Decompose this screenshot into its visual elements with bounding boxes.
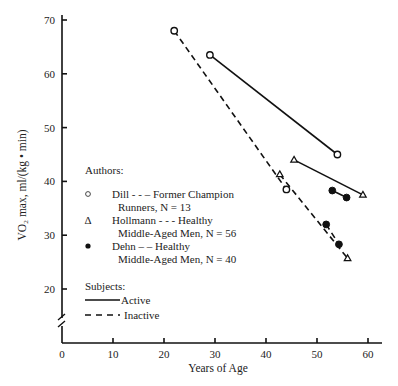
- legend-author-line2: Middle-Aged Men, N = 56: [118, 227, 237, 239]
- filled-circle-icon: [85, 243, 90, 248]
- x-tick-label: 20: [159, 348, 171, 360]
- filled-circle-marker: [336, 241, 343, 248]
- x-tick-label: 10: [108, 348, 120, 360]
- open-circle-icon: [86, 192, 91, 197]
- y-tick-label: 30: [44, 229, 56, 241]
- legend-author-line2: Runners, N = 13: [118, 201, 191, 213]
- legend-author-line1: Dill - - – Former Champion: [112, 188, 234, 200]
- legend-author-line1: Dehn – – Healthy: [112, 240, 190, 252]
- open-triangle-marker: [276, 171, 283, 177]
- y-tick-label: 60: [44, 68, 56, 80]
- filled-circle-marker: [329, 187, 336, 194]
- y-tick-label: 40: [44, 175, 56, 187]
- x-tick-label: 60: [363, 348, 375, 360]
- x-tick-label: 0: [59, 348, 65, 360]
- legend-authors-title: Authors:: [85, 164, 124, 176]
- y-tick-label: 50: [44, 122, 56, 134]
- filled-circle-marker: [343, 194, 350, 201]
- x-axis-title: Years of Age: [188, 362, 248, 375]
- open-triangle-marker: [291, 156, 298, 162]
- open-circle-marker: [283, 186, 289, 192]
- legend-subjects-title: Subjects:: [85, 280, 125, 292]
- series-dehn-active: [329, 187, 350, 201]
- legend-author-line2: Middle-Aged Men, N = 40: [118, 253, 237, 265]
- series-line: [174, 31, 286, 190]
- y-axis-title: VO₂ max, ml/(kg • min): [16, 129, 29, 240]
- legend-author-line1: Hollmann - - - Healthy: [112, 214, 213, 226]
- open-triangle-marker: [360, 191, 367, 197]
- y-tick-label: 20: [44, 283, 56, 295]
- legend-subject-label: Active: [121, 294, 150, 306]
- series-line: [294, 160, 363, 195]
- filled-circle-marker: [323, 221, 330, 228]
- vo2-max-chart: 2030405060700102030405060Years of AgeVO₂…: [0, 0, 398, 386]
- x-tick-label: 40: [261, 348, 273, 360]
- y-tick-label: 70: [44, 14, 56, 26]
- open-circle-marker: [334, 151, 340, 157]
- series-line: [210, 55, 338, 155]
- open-circle-marker: [171, 28, 177, 34]
- x-tick-label: 30: [210, 348, 222, 360]
- legend: Authors:Dill - - – Former ChampionRunner…: [84, 164, 236, 321]
- series-dill-inactive: [171, 28, 290, 193]
- triangle-icon: Δ: [84, 214, 91, 226]
- series-dehn-inactive: [323, 221, 343, 248]
- legend-subject-label: Inactive: [124, 309, 160, 321]
- x-tick-label: 50: [312, 348, 324, 360]
- open-circle-marker: [207, 52, 213, 58]
